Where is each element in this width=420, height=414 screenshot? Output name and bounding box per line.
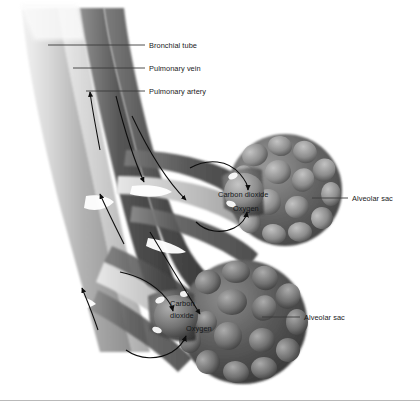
label-carbon-dioxide-upper: Carbon dioxide <box>218 190 268 199</box>
label-pulmonary-artery: Pulmonary artery <box>149 87 206 96</box>
anatomy-artwork <box>0 0 420 414</box>
label-oxygen-lower: Oxygen <box>186 324 212 333</box>
bottom-divider <box>0 400 420 401</box>
illustration-canvas: Bronchial tube Pulmonary vein Pulmonary … <box>0 0 420 414</box>
label-pulmonary-vein: Pulmonary vein <box>149 64 201 73</box>
label-alveolar-sac-lower: Alveolar sac <box>304 313 345 322</box>
label-alveolar-sac-upper: Alveolar sac <box>352 194 393 203</box>
label-oxygen-upper: Oxygen <box>233 204 259 213</box>
label-carbon-dioxide-lower-line1: Carbon <box>170 299 195 308</box>
label-carbon-dioxide-lower-line2: dioxide <box>170 311 194 320</box>
label-bronchial-tube: Bronchial tube <box>149 41 197 50</box>
